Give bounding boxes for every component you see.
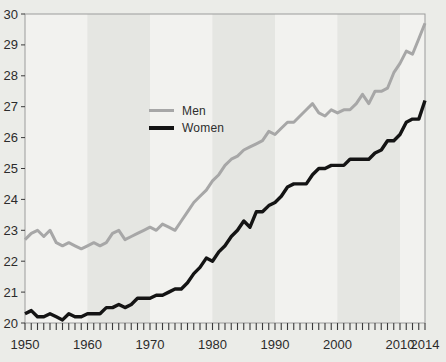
- decade-band: [25, 14, 88, 323]
- x-tick-label: 1960: [73, 337, 102, 352]
- decade-band: [338, 14, 401, 323]
- x-tick-label: 1950: [11, 337, 40, 352]
- decade-band: [88, 14, 151, 323]
- x-tick-label: 1990: [261, 337, 290, 352]
- y-tick-label: 29: [4, 37, 18, 52]
- x-tick-label: 2000: [323, 337, 352, 352]
- legend-label-men: Men: [182, 104, 206, 118]
- page-background: 2021222324252627282930195019601970198019…: [0, 0, 446, 362]
- age-at-first-marriage-chart: 2021222324252627282930195019601970198019…: [0, 0, 446, 362]
- y-tick-label: 27: [4, 99, 18, 114]
- y-tick-label: 25: [4, 161, 18, 176]
- legend-item-women: Women: [149, 121, 224, 134]
- y-tick-label: 30: [4, 7, 18, 22]
- y-tick-label: 21: [4, 285, 18, 300]
- chart-plot-area: 2021222324252627282930195019601970198019…: [0, 0, 446, 362]
- x-tick-label: 1980: [198, 337, 227, 352]
- y-tick-label: 26: [4, 130, 18, 145]
- y-tick-label: 23: [4, 223, 18, 238]
- y-tick-label: 24: [4, 192, 18, 207]
- men-line-swatch: [149, 109, 174, 112]
- y-tick-label: 28: [4, 68, 18, 83]
- legend-label-women: Women: [182, 121, 224, 135]
- legend-item-men: Men: [149, 104, 224, 117]
- chart-legend: Men Women: [149, 104, 224, 134]
- y-tick-label: 20: [4, 316, 18, 331]
- x-tick-label: 1970: [136, 337, 165, 352]
- women-line-swatch: [149, 126, 174, 130]
- decade-band: [150, 14, 213, 323]
- decade-band: [400, 14, 425, 323]
- y-tick-label: 22: [4, 254, 18, 269]
- x-tick-label: 2014: [411, 337, 440, 352]
